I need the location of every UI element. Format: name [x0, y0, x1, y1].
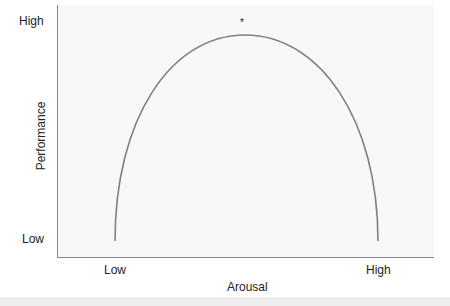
- y-tick-high: High: [19, 14, 44, 28]
- x-axis-title: Arousal: [227, 280, 268, 294]
- x-tick-low: Low: [104, 263, 126, 277]
- inverted-u-curve: [0, 0, 450, 306]
- y-axis-title: Performance: [34, 102, 48, 171]
- x-tick-high: High: [366, 263, 391, 277]
- footer-strip: [0, 297, 450, 306]
- peak-marker: *: [240, 17, 244, 28]
- y-tick-low: Low: [22, 232, 44, 246]
